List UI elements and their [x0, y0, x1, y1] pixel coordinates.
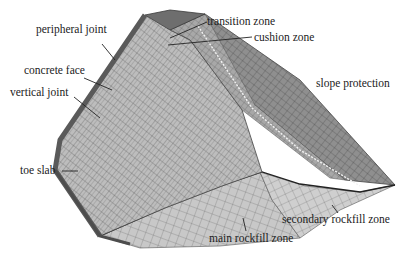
label-main-rockfill-zone: main rockfill zone: [209, 233, 293, 245]
label-peripheral-joint: peripheral joint: [36, 24, 107, 36]
dam-mesh-diagram: peripheral joint concrete face vertical …: [0, 0, 410, 256]
label-toe-slab: toe slab: [20, 165, 55, 177]
label-cushion-zone: cushion zone: [254, 32, 314, 44]
leader-peripheral-joint: [102, 44, 115, 60]
label-secondary-rockfill-zone: secondary rockfill zone: [282, 214, 390, 226]
label-vertical-joint: vertical joint: [10, 87, 68, 99]
label-transition-zone: transition zone: [207, 16, 275, 28]
label-concrete-face: concrete face: [24, 65, 85, 77]
label-slope-protection: slope protection: [316, 78, 390, 90]
